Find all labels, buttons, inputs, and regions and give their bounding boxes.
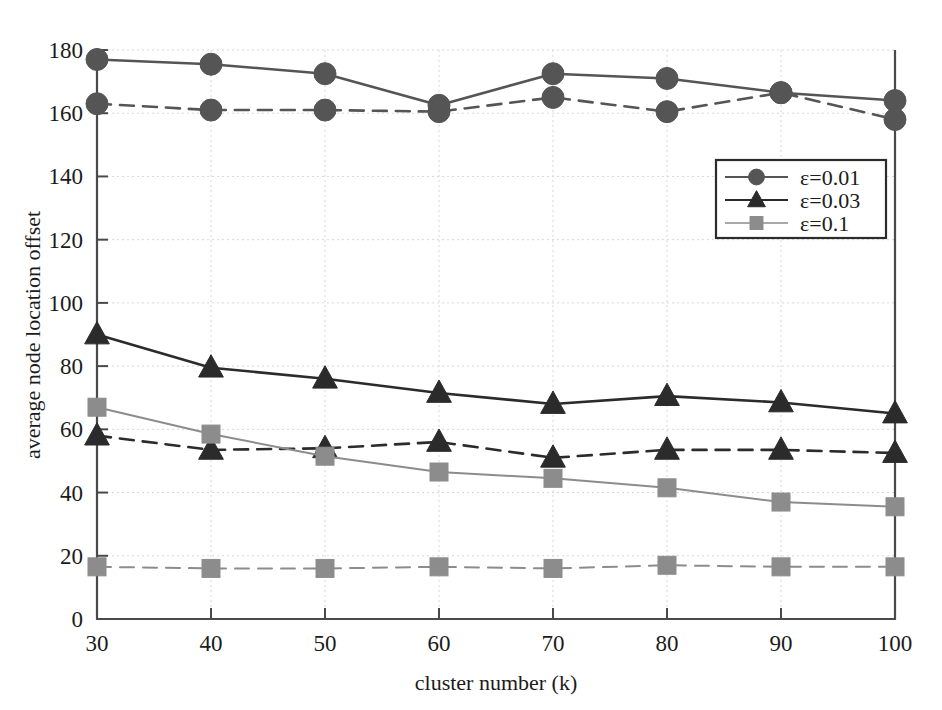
data-point-square: [316, 559, 334, 577]
legend-label[interactable]: ε=0.01: [800, 165, 860, 190]
data-point-square: [88, 558, 106, 576]
x-axis-title: cluster number (k): [415, 670, 578, 695]
data-point-circle: [428, 101, 450, 123]
data-point-square: [202, 559, 220, 577]
chart-figure: 30405060708090100 0204060801001201401601…: [0, 0, 942, 710]
data-point-square: [430, 463, 448, 481]
data-point-circle: [200, 99, 222, 121]
y-tick-label: 100: [49, 291, 84, 316]
y-tick-label: 60: [60, 417, 83, 442]
y-tick-label: 20: [60, 544, 83, 569]
data-point-square: [316, 447, 334, 465]
x-tick-label: 90: [770, 631, 793, 656]
data-point-square: [750, 217, 763, 230]
data-point-square: [202, 425, 220, 443]
data-point-circle: [314, 63, 336, 85]
data-point-circle: [884, 109, 906, 131]
data-point-circle: [86, 93, 108, 115]
data-point-circle: [656, 101, 678, 123]
y-tick-label: 160: [49, 101, 84, 126]
data-point-square: [658, 479, 676, 497]
data-point-circle: [542, 63, 564, 85]
y-tick-label: 120: [49, 228, 84, 253]
x-tick-label: 70: [542, 631, 565, 656]
data-point-circle: [749, 169, 765, 185]
y-tick-label: 180: [49, 38, 84, 63]
data-point-circle: [200, 53, 222, 75]
data-point-circle: [86, 48, 108, 70]
data-point-square: [544, 559, 562, 577]
line-chart: 30405060708090100 0204060801001201401601…: [0, 0, 942, 710]
x-tick-label: 40: [200, 631, 223, 656]
data-point-square: [772, 558, 790, 576]
data-point-circle: [656, 67, 678, 89]
data-point-square: [658, 556, 676, 574]
data-point-square: [886, 558, 904, 576]
legend[interactable]: ε=0.01ε=0.03ε=0.1: [716, 160, 886, 238]
x-tick-label: 60: [428, 631, 451, 656]
y-axis-title: average node location offset: [20, 211, 45, 459]
y-tick-label: 140: [49, 164, 84, 189]
y-tick-label: 40: [60, 481, 83, 506]
legend-label[interactable]: ε=0.1: [800, 211, 849, 236]
y-tick-label: 0: [72, 607, 84, 632]
x-tick-label: 100: [878, 631, 913, 656]
data-point-square: [772, 493, 790, 511]
data-point-square: [544, 469, 562, 487]
data-point-square: [88, 398, 106, 416]
data-point-circle: [314, 99, 336, 121]
y-tick-label: 80: [60, 354, 83, 379]
data-point-square: [430, 558, 448, 576]
data-point-square: [886, 498, 904, 516]
x-tick-label: 50: [314, 631, 337, 656]
data-point-circle: [542, 86, 564, 108]
data-point-circle: [770, 82, 792, 104]
x-tick-label: 30: [86, 631, 109, 656]
legend-label[interactable]: ε=0.03: [800, 188, 860, 213]
x-tick-label: 80: [656, 631, 679, 656]
